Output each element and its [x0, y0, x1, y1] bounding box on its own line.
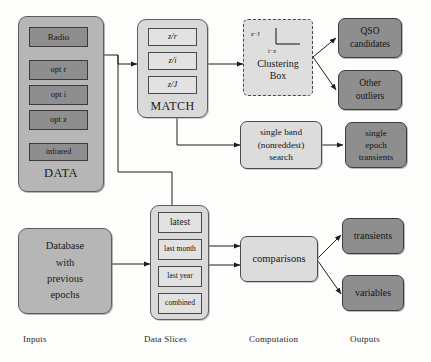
- output-single-epoch-line-3: transients: [359, 151, 394, 163]
- clustering-box-label-line2: Box: [243, 70, 313, 82]
- band-box-infrared[interactable]: infrared: [29, 143, 88, 161]
- clustering-box-label: Clustering Box: [243, 58, 313, 81]
- slice-label-last-month: last month: [164, 245, 196, 254]
- column-label-data-slices: Data Slices: [144, 334, 187, 344]
- column-label-computation: Computation: [249, 334, 298, 344]
- database-line-2: with: [56, 255, 75, 271]
- output-qso-line-2: candidates: [350, 38, 390, 51]
- output-variables-label: variables: [355, 287, 391, 298]
- clustering-plot-xlabel: i−z: [268, 47, 276, 54]
- output-single-epoch-transients[interactable]: single epoch transients: [345, 122, 407, 168]
- output-single-epoch-line-1: single: [365, 127, 387, 139]
- slice-latest[interactable]: latest: [158, 212, 202, 233]
- band-label-radio: Radio: [48, 32, 70, 42]
- output-other-line-1: Other: [359, 77, 381, 90]
- output-qso-line-1: QSO: [360, 25, 379, 38]
- band-label-opt-z: opt z: [50, 115, 67, 125]
- slice-label-combined: combined: [165, 299, 195, 308]
- output-other-line-2: outliers: [356, 90, 385, 103]
- column-label-outputs: Outputs: [350, 334, 380, 344]
- slice-combined[interactable]: combined: [158, 293, 202, 314]
- column-label-inputs: Inputs: [23, 334, 47, 344]
- slice-label-latest: latest: [170, 217, 190, 228]
- match-pair-z-r[interactable]: z/r: [148, 28, 197, 46]
- slice-label-last-year: last year: [167, 272, 193, 281]
- database-line-4: epochs: [50, 287, 79, 303]
- clustering-plot-ylabel: z−J: [251, 30, 260, 37]
- band-box-radio[interactable]: Radio: [29, 27, 88, 47]
- band-box-opt-i[interactable]: opt i: [29, 85, 88, 105]
- output-variables[interactable]: variables: [342, 275, 404, 311]
- single-band-search-box[interactable]: single band (nonreddest) search: [240, 121, 322, 169]
- clustering-box-label-line1: Clustering: [243, 58, 313, 70]
- caption-partial: [18, 355, 416, 362]
- output-single-epoch-line-2: epoch: [365, 139, 387, 151]
- match-pair-label-z-r: z/r: [168, 32, 177, 42]
- match-pair-z-i[interactable]: z/i: [148, 52, 197, 70]
- band-label-opt-i: opt i: [51, 90, 66, 100]
- slice-last-year[interactable]: last year: [158, 266, 202, 287]
- match-panel-title: MATCH: [137, 99, 208, 114]
- band-label-infrared: infrared: [46, 148, 71, 157]
- match-pair-label-z-i: z/i: [168, 56, 176, 66]
- output-transients[interactable]: transients: [342, 218, 404, 254]
- output-transients-label: transients: [354, 230, 392, 241]
- slice-last-month[interactable]: last month: [158, 239, 202, 260]
- band-label-opt-r: opt r: [51, 65, 67, 75]
- database-box[interactable]: Database with previous epochs: [18, 228, 112, 314]
- database-line-1: Database: [46, 238, 84, 254]
- single-band-line-3: search: [269, 151, 292, 164]
- band-box-opt-r[interactable]: opt r: [29, 60, 88, 80]
- single-band-line-1: single band: [260, 126, 302, 139]
- match-pair-z-J[interactable]: z/J: [148, 76, 197, 94]
- output-qso-candidates[interactable]: QSO candidates: [338, 18, 402, 58]
- band-box-opt-z[interactable]: opt z: [29, 110, 88, 130]
- database-line-3: previous: [47, 271, 83, 287]
- comparisons-label: comparisons: [252, 253, 305, 265]
- single-band-line-2: (nonreddest): [258, 139, 304, 152]
- diagram-canvas: Radio opt r opt i opt z infrared DATA Da…: [0, 0, 431, 362]
- data-panel-title: DATA: [18, 166, 104, 181]
- output-other-outliers[interactable]: Other outliers: [338, 70, 402, 110]
- match-pair-label-z-J: z/J: [168, 80, 177, 90]
- comparisons-box[interactable]: comparisons: [240, 236, 318, 282]
